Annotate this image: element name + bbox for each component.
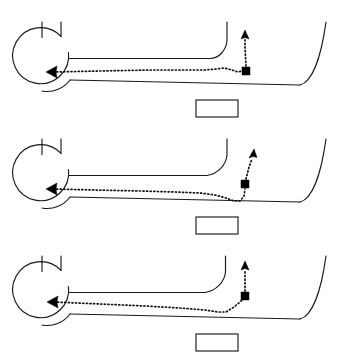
schematic-figure [0, 0, 345, 364]
ejection-arrowhead-icon [249, 149, 257, 158]
tube-bottom-line [70, 80, 300, 85]
tube-bottom-line [70, 314, 300, 319]
panel-2 [13, 139, 326, 234]
outlet-curve [210, 22, 227, 59]
square-marker-icon [241, 292, 249, 300]
trajectory-dotted-path [54, 298, 244, 312]
trajectory-dotted-path [53, 68, 242, 72]
legend-box [196, 217, 238, 234]
floor-rise-curve [300, 256, 326, 319]
outlet-curve [205, 256, 226, 293]
chamber-circle [13, 145, 69, 201]
chamber-circle [13, 28, 69, 84]
vessel-outline-group [13, 139, 326, 209]
panel-1 [13, 22, 326, 117]
tube-bottom-line [70, 197, 300, 202]
ejection-arrowhead-icon [241, 261, 249, 270]
chamber-circle-lower [42, 80, 70, 92]
legend-box [196, 100, 238, 117]
ejection-dotted-path [246, 159, 252, 179]
vessel-outline-group [13, 22, 326, 92]
outlet-curve [207, 139, 227, 176]
panel-3 [13, 256, 326, 351]
ejection-arrowhead-icon [241, 30, 249, 39]
chamber-circle-lower [42, 197, 70, 209]
chamber-circle-lower [42, 314, 70, 326]
ejection-dotted-path [245, 38, 246, 66]
square-marker-icon [242, 67, 250, 75]
legend-box [196, 334, 238, 351]
vessel-outline-group [13, 256, 326, 326]
chamber-circle [13, 262, 69, 318]
source-arrowhead-icon [46, 183, 57, 195]
floor-rise-curve [300, 139, 326, 202]
source-arrowhead-icon [46, 66, 57, 78]
figure-root [0, 0, 345, 364]
source-arrowhead-icon [47, 296, 58, 308]
floor-rise-curve [300, 22, 326, 85]
square-marker-icon [241, 180, 249, 188]
